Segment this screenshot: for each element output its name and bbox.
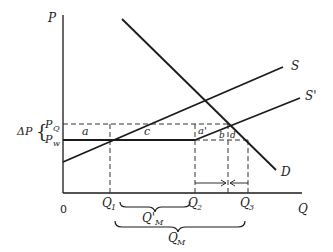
area-d-label: d (230, 130, 236, 140)
qm-prime-label: Q' (142, 211, 155, 225)
qm-subscript: M (176, 238, 186, 247)
qm-brace (115, 221, 245, 232)
q2-subscript: 2 (196, 203, 202, 212)
pq-label: P (44, 118, 53, 131)
origin-label: 0 (60, 203, 67, 216)
pq-subscript: Q (53, 124, 60, 133)
q1-subscript: 1 (111, 203, 116, 212)
supply-curve-s (63, 67, 283, 162)
s-prime-curve-label: S' (305, 89, 317, 103)
diagram-canvas: P Q 0 S S' D ΔP { P Q P w Q 1 Q 2 Q 3 Q'… (0, 0, 333, 252)
demand-curve-d (122, 19, 276, 170)
quantity-change-arrows (195, 180, 248, 186)
y-axis-label: P (47, 11, 57, 25)
area-a-label: a (82, 125, 89, 138)
supply-curve-s-prime (195, 98, 300, 140)
d-curve-label: D (280, 165, 291, 179)
area-b-label: b (219, 130, 225, 140)
delta-p-label: ΔP (16, 125, 33, 138)
x-axis-label: Q (298, 202, 308, 216)
area-a-prime-label: a' (198, 125, 207, 136)
pw-subscript: w (53, 139, 60, 148)
supply-demand-diagram: P Q 0 S S' D ΔP { P Q P w Q 1 Q 2 Q 3 Q'… (0, 0, 333, 252)
area-c-label: c (144, 125, 150, 138)
q3-subscript: 3 (249, 203, 254, 212)
s-curve-label: S (291, 59, 299, 73)
pw-label: P (44, 133, 53, 146)
qm-prime-subscript: M (154, 218, 164, 227)
